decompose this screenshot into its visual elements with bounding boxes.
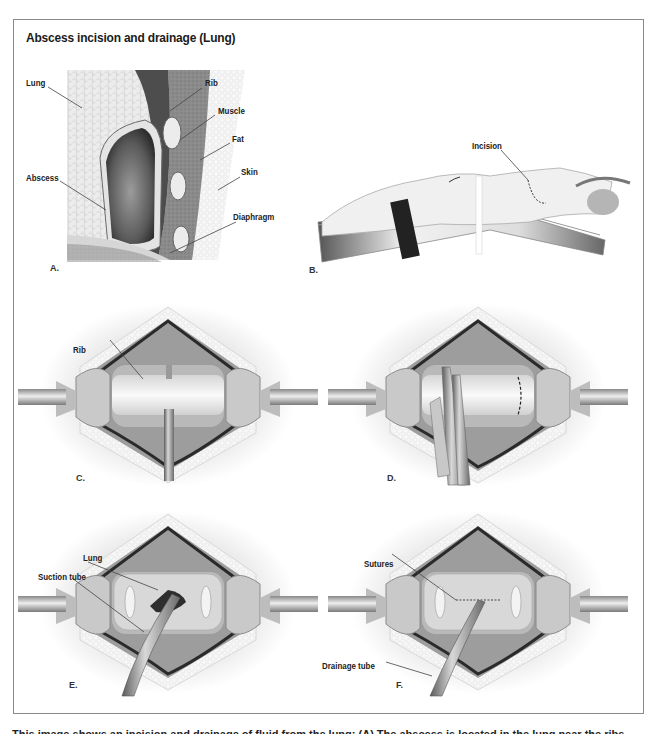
label-muscle: Muscle	[218, 106, 245, 116]
label-diaphragm: Diaphragm	[233, 212, 274, 222]
panel-a-anatomy-cross-section	[48, 70, 245, 262]
panel-letter-d: D.	[387, 473, 396, 483]
panel-b-patient-position	[318, 150, 630, 262]
panel-c-rib-exposure	[18, 303, 318, 487]
panel-letter-c: C.	[76, 473, 85, 483]
panel-e-suction	[18, 510, 318, 696]
illustration-canvas	[0, 0, 656, 734]
label-lung-e: Lung	[83, 553, 102, 563]
panel-letter-b: B.	[309, 265, 318, 275]
label-sutures: Sutures	[364, 559, 393, 569]
label-fat: Fat	[232, 134, 244, 144]
panel-letter-e: E.	[69, 680, 78, 690]
label-abscess: Abscess	[26, 173, 59, 183]
label-rib-c: Rib	[73, 345, 86, 355]
label-rib-a: Rib	[205, 78, 218, 88]
figure-caption-cropped: This image shows an incision and drainag…	[12, 725, 644, 734]
label-skin: Skin	[241, 167, 258, 177]
label-lung-a: Lung	[26, 78, 45, 88]
label-suction-tube: Suction tube	[38, 572, 86, 582]
panel-d-rib-resection	[328, 303, 628, 487]
panel-letter-f: F.	[396, 680, 403, 690]
label-drainage-tube: Drainage tube	[322, 661, 375, 671]
label-incision: Incision	[472, 141, 502, 151]
panel-letter-a: A.	[50, 263, 59, 273]
